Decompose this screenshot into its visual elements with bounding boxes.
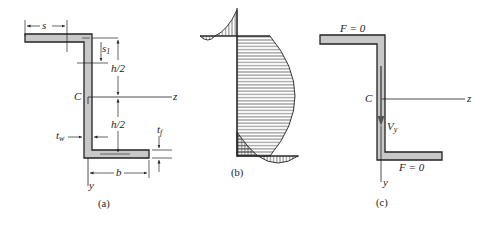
label-centroid-c: C <box>74 90 82 102</box>
label-z-axis: z <box>172 90 178 102</box>
label-centroid-c-panel-c: C <box>365 92 373 104</box>
panel-b: (b) <box>200 8 299 179</box>
top-flange-shear-negative <box>200 36 215 40</box>
label-vy: Vy <box>387 120 398 134</box>
top-flange-shear-positive <box>215 10 237 36</box>
label-tw: tw <box>56 129 65 143</box>
bottom-flange-shear-negative <box>258 156 298 163</box>
figure-canvas: s s1 h/2 h/2 C z y tw tf b <box>0 0 489 225</box>
label-h-half-lower: h/2 <box>111 118 126 130</box>
label-b: b <box>116 166 122 178</box>
label-y-axis-panel-c: y <box>382 176 388 188</box>
caption-b: (b) <box>231 167 244 179</box>
label-s1: s1 <box>102 42 110 56</box>
panel-a: s s1 h/2 h/2 C z y tw tf b <box>25 19 178 210</box>
label-s: s <box>42 19 46 31</box>
panel-c: F = 0 F = 0 C z Vy y (c) <box>320 22 472 209</box>
web-shear-distribution <box>237 36 295 156</box>
label-y-axis: y <box>88 179 94 191</box>
label-z-axis-panel-c: z <box>466 92 472 104</box>
z-section-shape <box>25 34 149 158</box>
caption-a: (a) <box>98 198 110 210</box>
caption-c: (c) <box>376 197 388 209</box>
label-bottom-flange-force: F = 0 <box>398 161 425 173</box>
label-tf: tf <box>157 123 164 137</box>
label-h-half-upper: h/2 <box>111 62 126 74</box>
label-top-flange-force: F = 0 <box>339 22 366 34</box>
